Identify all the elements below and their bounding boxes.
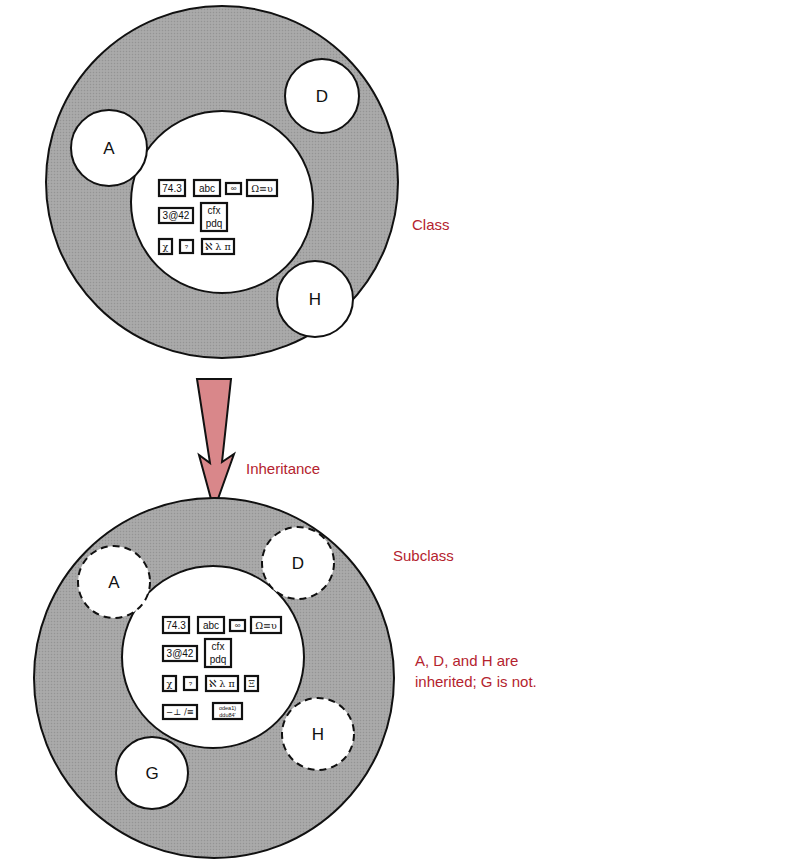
data-item: pdq [210, 654, 227, 665]
member-d-label: D [316, 87, 328, 106]
data-item: 3@42 [167, 648, 194, 659]
class-diagram: A D H 74.3 abc ∞ Ω≡υ 3@42 cfx pdq χ [46, 6, 398, 358]
data-item: χ [167, 678, 173, 689]
data-item: abc [199, 183, 215, 194]
subclass-diagram: A D H G 74.3 abc ∞ Ω≡υ 3@42 cfx [34, 498, 394, 858]
data-item: Ξ [248, 678, 255, 689]
data-item: ∞ [231, 184, 237, 193]
subclass-label: Subclass [393, 547, 454, 564]
data-item: 74.3 [162, 183, 182, 194]
member-d-label: D [292, 554, 304, 573]
data-item: pdq [206, 218, 223, 229]
data-item: abc [203, 620, 219, 631]
data-item: cfx [212, 641, 225, 652]
data-item: −⊥ /≡ [166, 707, 194, 717]
data-item: Ω≡υ [251, 183, 273, 194]
member-h-label: H [309, 290, 321, 309]
class-member-d: D [285, 59, 359, 133]
inheritance-label: Inheritance [246, 460, 320, 477]
data-item: χ [163, 241, 169, 252]
caption-line-1: A, D, and H are [415, 652, 518, 669]
subclass-member-h-inherited: H [282, 698, 354, 770]
class-label: Class [412, 216, 450, 233]
member-h-label: H [312, 725, 324, 744]
subclass-member-d-inherited: D [262, 527, 334, 599]
member-a-label: A [103, 139, 115, 158]
subclass-member-a-inherited: A [78, 546, 150, 618]
inheritance-arrow-icon [197, 379, 234, 510]
data-item: odea1) [219, 705, 236, 711]
class-member-a: A [71, 110, 147, 186]
data-item: ddu84' [219, 712, 235, 718]
member-a-label: A [108, 573, 120, 592]
caption-line-2: inherited; G is not. [415, 673, 537, 690]
data-item: cfx [208, 205, 221, 216]
data-item: 3@42 [163, 210, 190, 221]
data-item: ℵ λ π [205, 241, 230, 252]
member-g-label: G [145, 764, 158, 783]
data-item: Ω≡υ [255, 620, 277, 631]
data-item: 74.3 [166, 620, 186, 631]
subclass-member-g-not-inherited: G [116, 737, 188, 809]
class-member-h: H [277, 261, 353, 337]
data-item: ∞ [235, 621, 241, 630]
data-item: ℵ λ π [209, 678, 234, 689]
